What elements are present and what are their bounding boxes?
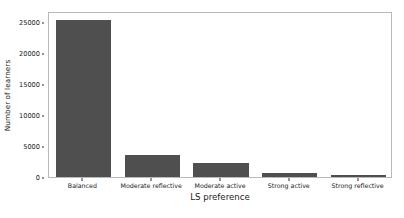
y-tick-mark	[42, 23, 45, 24]
y-axis-title-text: Number of learners	[4, 59, 13, 131]
y-tick-label: 10000	[19, 112, 40, 120]
x-tick-mark	[220, 178, 221, 181]
x-tick-label: Moderate reflective	[120, 182, 181, 189]
bars-container	[49, 13, 391, 177]
y-tick-label: 0	[36, 174, 40, 182]
y-tick-label: 5000	[23, 143, 40, 151]
y-tick-label: 20000	[19, 50, 40, 58]
bar-chart-figure: Number of learners 050001000015000200002…	[0, 0, 404, 218]
plot-area	[48, 12, 392, 178]
x-tick-label: Strong active	[268, 182, 310, 189]
bar	[56, 20, 111, 177]
x-tick-mark	[357, 178, 358, 181]
x-tick-label: Balanced	[68, 182, 97, 189]
y-tick-mark	[42, 147, 45, 148]
y-tick-mark	[42, 85, 45, 86]
bar	[331, 175, 386, 177]
x-tick-mark	[151, 178, 152, 181]
y-tick-label: 15000	[19, 81, 40, 89]
bar	[125, 155, 180, 177]
x-axis-title: LS preference	[48, 192, 392, 202]
y-tick-label: 25000	[19, 19, 40, 27]
y-tick-mark	[42, 116, 45, 117]
bar	[193, 163, 248, 177]
y-tick-mark	[42, 178, 45, 179]
y-axis-tick-labels: 0500010000150002000025000	[14, 0, 44, 218]
x-tick-mark	[288, 178, 289, 181]
x-tick-label: Moderate active	[194, 182, 245, 189]
bar	[262, 173, 317, 177]
y-tick-mark	[42, 54, 45, 55]
x-tick-label: Strong reflective	[331, 182, 383, 189]
x-tick-mark	[82, 178, 83, 181]
